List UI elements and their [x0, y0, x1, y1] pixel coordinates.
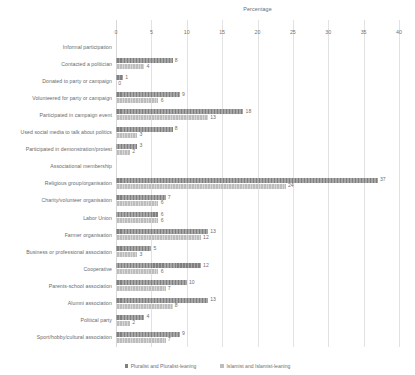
- bar-series-0: [116, 178, 378, 183]
- category-label: Charity/volunteer organisation: [42, 197, 112, 203]
- bar-value-label: 3: [139, 252, 142, 257]
- category-label: Participated in demonstration/protest: [26, 146, 112, 152]
- category-label: Business or professional association: [26, 249, 112, 255]
- bar-value-label: 6: [161, 98, 164, 103]
- bar-group: 42: [116, 312, 399, 329]
- bar-series-0: [116, 58, 173, 63]
- bar-row: Contacted a politician84: [116, 55, 399, 72]
- bar-series-1: [116, 115, 208, 120]
- bar-series-0: [116, 280, 187, 285]
- bar-value-label: 8: [175, 303, 178, 308]
- bar-value-label: 8: [175, 58, 178, 63]
- bar-series-0: [116, 92, 180, 97]
- x-tick-20: 20: [255, 29, 261, 35]
- bar-series-1: [116, 98, 158, 103]
- bar-row: Participated in demonstration/protest32: [116, 141, 399, 158]
- bar-row: Sport/hobby/cultural association97: [116, 329, 399, 346]
- x-tick-5: 5: [150, 29, 153, 35]
- bar-group: 83: [116, 124, 399, 141]
- chart-legend: Pluralist and Pluralist-leaningIslamist …: [0, 363, 415, 369]
- bar-value-label: 4: [147, 314, 150, 319]
- bar-group: 66: [116, 209, 399, 226]
- bar-group: 10: [116, 72, 399, 89]
- bar-value-label: 12: [203, 263, 209, 268]
- legend-swatch-icon: [125, 364, 129, 368]
- category-label: Farmer organisation: [65, 232, 112, 238]
- bar-series-1: [116, 252, 137, 257]
- category-label: Alumni association: [68, 300, 112, 306]
- category-label: Contacted a politician: [61, 61, 112, 67]
- bar-group: 96: [116, 89, 399, 106]
- bar-value-label: 9: [182, 92, 185, 97]
- legend-swatch-icon: [220, 364, 224, 368]
- bar-group: 1813: [116, 106, 399, 123]
- bar-group: 3724: [116, 175, 399, 192]
- bar-value-label: 1: [125, 75, 128, 80]
- category-label: Participated in campaign event: [40, 112, 112, 118]
- category-label: Cooperative: [83, 266, 112, 272]
- group-header-row: Associational membership: [116, 158, 399, 175]
- gridline-40: [399, 20, 400, 347]
- bar-group: 97: [116, 329, 399, 346]
- bar-value-label: 7: [168, 337, 171, 342]
- bar-row: Business or professional association53: [116, 243, 399, 260]
- bar-value-label: 13: [210, 297, 216, 302]
- bar-value-label: 10: [189, 280, 195, 285]
- bar-value-label: 9: [182, 331, 185, 336]
- bar-series-1: [116, 286, 166, 291]
- bar-value-label: 4: [147, 64, 150, 69]
- bar-value-label: 0: [118, 81, 121, 86]
- bar-value-label: 3: [139, 132, 142, 137]
- plot-area: 0510152025303540 Informal participationC…: [116, 20, 399, 347]
- bar-group: 126: [116, 260, 399, 277]
- category-label: Volunteered for party or campaign: [32, 95, 112, 101]
- bar-series-1: [116, 184, 286, 189]
- bar-value-label: 13: [210, 115, 216, 120]
- bar-value-label: 13: [210, 229, 216, 234]
- bar-series-1: [116, 81, 117, 86]
- bar-value-label: 6: [161, 200, 164, 205]
- bar-series-1: [116, 133, 137, 138]
- bar-value-label: 24: [288, 183, 294, 188]
- bar-series-0: [116, 195, 166, 200]
- bar-series-1: [116, 150, 130, 155]
- bar-row: Religious group/organisation3724: [116, 175, 399, 192]
- bar-series-1: [116, 218, 158, 223]
- legend-label: Islamist and Islamist-leaning: [226, 363, 290, 369]
- category-label: Used social media to talk about politics: [21, 129, 112, 135]
- bar-value-label: 7: [168, 286, 171, 291]
- category-label: Donated to party or campaign: [42, 78, 112, 84]
- bar-value-label: 8: [175, 126, 178, 131]
- percentage-bar-chart: Percentage 0510152025303540 Informal par…: [0, 0, 415, 375]
- category-label: Informal participation: [63, 44, 112, 50]
- bar-row: Volunteered for party or campaign96: [116, 89, 399, 106]
- bar-value-label: 37: [380, 177, 386, 182]
- bar-row: Donated to party or campaign10: [116, 72, 399, 89]
- bar-series-1: [116, 321, 130, 326]
- bar-row: Farmer organisation1312: [116, 226, 399, 243]
- legend-label: Pluralist and Pluralist-leaning: [131, 363, 197, 369]
- bar-series-0: [116, 298, 208, 303]
- legend-item-0[interactable]: Pluralist and Pluralist-leaning: [125, 363, 197, 369]
- bar-group: 1312: [116, 226, 399, 243]
- bar-row: Charity/volunteer organisation76: [116, 192, 399, 209]
- bar-series-0: [116, 229, 208, 234]
- x-tick-10: 10: [184, 29, 190, 35]
- x-axis-title: Percentage: [243, 6, 272, 12]
- category-label: Political party: [80, 317, 112, 323]
- bar-value-label: 12: [203, 235, 209, 240]
- bar-series-0: [116, 127, 173, 132]
- bar-series-1: [116, 201, 158, 206]
- bar-value-label: 7: [168, 195, 171, 200]
- bar-series-1: [116, 64, 144, 69]
- bar-row: Political party42: [116, 312, 399, 329]
- x-tick-30: 30: [325, 29, 331, 35]
- bar-group: 76: [116, 192, 399, 209]
- bar-series-1: [116, 269, 158, 274]
- legend-item-1[interactable]: Islamist and Islamist-leaning: [220, 363, 290, 369]
- bar-value-label: 5: [154, 246, 157, 251]
- category-label: Religious group/organisation: [45, 180, 112, 186]
- bar-series-1: [116, 235, 201, 240]
- bar-series-1: [116, 304, 173, 309]
- bar-group: 107: [116, 277, 399, 294]
